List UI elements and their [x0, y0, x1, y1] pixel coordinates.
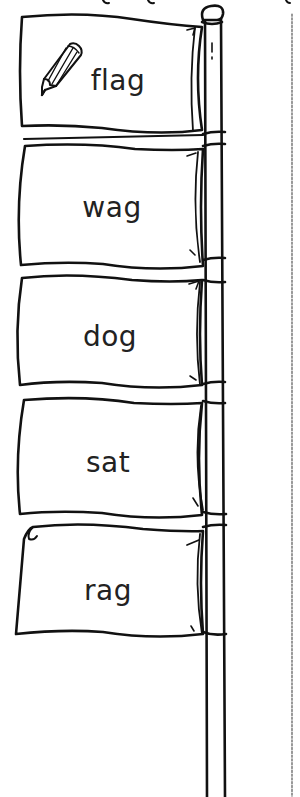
flagpole-worksheet-art [0, 0, 300, 797]
flag-4-word: sat [86, 446, 130, 479]
flag-2-word: wag [82, 191, 141, 224]
flag-3-word: dog [83, 320, 137, 353]
cropped-title-fragments [103, 0, 290, 3]
flag-1-word: flag [91, 64, 146, 97]
flag-5-word: rag [84, 574, 132, 607]
